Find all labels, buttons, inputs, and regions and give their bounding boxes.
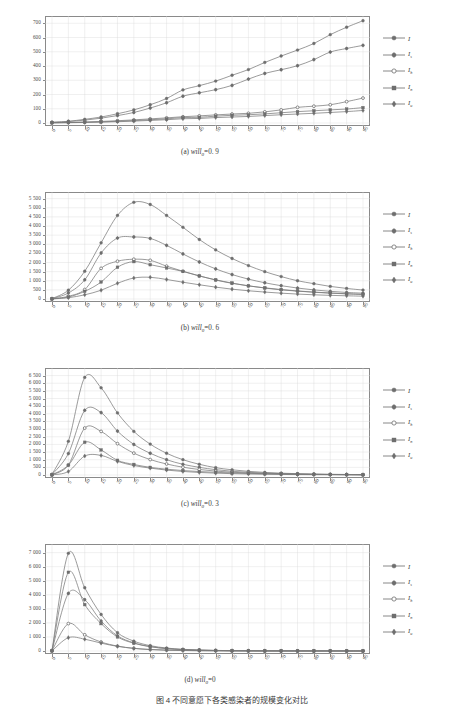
legend-marker-filled-diamond-icon	[383, 276, 405, 284]
legend-item-in[interactable]: In	[383, 84, 412, 92]
legend-item-i[interactable]: I	[383, 386, 412, 394]
x-tick-label: 90	[346, 302, 353, 309]
legend-item-ih[interactable]: Ih	[383, 243, 412, 251]
y-tick-mark	[43, 391, 46, 392]
plot-area-c: 05001 0001 5002 0002 5003 0003 5004 0004…	[45, 368, 370, 478]
x-tick-label: 10	[84, 126, 91, 133]
legend-item-i[interactable]: I	[383, 34, 412, 42]
legend-label: Ih	[408, 66, 412, 75]
y-tick-mark	[43, 651, 46, 652]
plot-area-b: 05001 0001 5002 0002 5003 0003 5004 0004…	[45, 192, 370, 302]
x-tick-label: 60	[247, 126, 254, 133]
legend-marker-filled-square-icon	[383, 436, 405, 444]
legend-label: In	[408, 83, 412, 92]
y-tick-label: 2 500	[29, 434, 41, 439]
x-tick-label: 55	[231, 478, 238, 485]
legend-item-i[interactable]: I	[383, 562, 412, 570]
y-tick-label: 3 000	[29, 606, 41, 611]
x-tick-label: 20	[116, 126, 123, 133]
x-tick-label: 5	[67, 656, 73, 661]
legend-label: I	[408, 387, 410, 394]
y-tick-mark	[43, 272, 46, 273]
legend-marker-open-circle-icon	[383, 595, 405, 603]
x-tick-label: 90	[346, 654, 353, 661]
subplot-caption-c: (c) will0=0. 3	[0, 500, 400, 509]
y-tick-mark	[43, 637, 46, 638]
y-tick-label: 1 000	[29, 457, 41, 462]
legend-label: Iu	[408, 99, 412, 108]
x-tick-label: 50	[215, 654, 222, 661]
x-tick-label: 15	[100, 302, 107, 309]
x-tick-label: 90	[346, 478, 353, 485]
legend-item-is[interactable]: Is	[383, 579, 412, 587]
chart-legend: IIsIhInIu	[383, 386, 412, 460]
y-tick-mark	[43, 123, 46, 124]
x-tick-label: 60	[247, 654, 254, 661]
y-tick-mark	[43, 208, 46, 209]
y-tick-label: 100	[33, 106, 41, 111]
y-tick-label: 3 000	[29, 242, 41, 247]
x-tick-label: 85	[329, 302, 336, 309]
y-tick-label: 2 000	[29, 260, 41, 265]
y-tick-mark	[43, 399, 46, 400]
y-tick-mark	[43, 567, 46, 568]
legend-marker-filled-square-icon	[383, 260, 405, 268]
y-tick-mark	[43, 217, 46, 218]
y-tick-label: 3 500	[29, 419, 41, 424]
x-tick-label: 40	[182, 654, 189, 661]
x-tick-label: 20	[116, 654, 123, 661]
legend-item-in[interactable]: In	[383, 260, 412, 268]
x-tick-label: 10	[84, 478, 91, 485]
legend-label: Iu	[408, 627, 412, 636]
legend-marker-filled-circle-icon	[383, 210, 405, 218]
legend-item-in[interactable]: In	[383, 612, 412, 620]
y-tick-label: 2 000	[29, 442, 41, 447]
x-tick-label: 25	[133, 478, 140, 485]
y-tick-label: 4 500	[29, 214, 41, 219]
x-tick-label: 45	[198, 302, 205, 309]
y-tick-label: 2 500	[29, 251, 41, 256]
legend-item-is[interactable]: Is	[383, 227, 412, 235]
legend-label: In	[408, 259, 412, 268]
legend-item-is[interactable]: Is	[383, 51, 412, 59]
legend-item-ih[interactable]: Ih	[383, 419, 412, 427]
legend-marker-filled-diamond-icon	[383, 100, 405, 108]
legend-item-ih[interactable]: Ih	[383, 595, 412, 603]
x-tick-label: 80	[313, 302, 320, 309]
y-tick-mark	[43, 444, 46, 445]
y-tick-label: 300	[33, 78, 41, 83]
y-tick-mark	[43, 290, 46, 291]
y-tick-mark	[43, 429, 46, 430]
legend-item-iu[interactable]: Iu	[383, 628, 412, 636]
legend-item-ih[interactable]: Ih	[383, 67, 412, 75]
legend-item-i[interactable]: I	[383, 210, 412, 218]
y-tick-mark	[43, 437, 46, 438]
legend-item-iu[interactable]: Iu	[383, 100, 412, 108]
x-tick-label: 40	[182, 126, 189, 133]
x-tick-label: 55	[231, 654, 238, 661]
y-tick-label: 5 000	[29, 396, 41, 401]
y-tick-mark	[43, 52, 46, 53]
y-tick-label: 4 000	[29, 411, 41, 416]
y-tick-label: 500	[33, 465, 41, 470]
x-tick-label: 45	[198, 478, 205, 485]
x-tick-label: 15	[100, 126, 107, 133]
x-tick-label: 75	[297, 654, 304, 661]
y-tick-mark	[43, 80, 46, 81]
legend-label: Is	[408, 578, 412, 587]
legend-item-in[interactable]: In	[383, 436, 412, 444]
y-tick-mark	[43, 299, 46, 300]
x-tick-label: 75	[297, 478, 304, 485]
y-tick-label: 5 000	[29, 205, 41, 210]
y-tick-mark	[43, 263, 46, 264]
x-tick-label: 95	[362, 478, 369, 485]
y-tick-mark	[43, 235, 46, 236]
legend-item-iu[interactable]: Iu	[383, 452, 412, 460]
legend-item-iu[interactable]: Iu	[383, 276, 412, 284]
y-tick-label: 1 000	[29, 634, 41, 639]
legend-label: Is	[408, 226, 412, 235]
x-tick-label: 0	[51, 128, 57, 133]
legend-item-is[interactable]: Is	[383, 403, 412, 411]
y-tick-label: 7 000	[29, 550, 41, 555]
y-tick-label: 500	[33, 287, 41, 292]
